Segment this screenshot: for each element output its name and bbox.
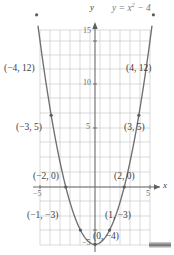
label-point-neg1-neg3: (−1, −3) [27,211,58,221]
data-point [79,228,82,231]
data-point [123,185,126,188]
data-point [93,243,96,246]
x-tick-5: 5 [146,190,150,198]
data-point [35,13,38,16]
scan-artifact-bar [149,242,171,248]
x-axis-label: x [163,181,167,190]
label-point-neg4-12: (−4, 12) [4,64,35,74]
data-point [137,114,140,117]
data-point [152,13,155,16]
equation-base: y = x [112,3,132,13]
label-point-neg2-0: (−2, 0) [33,172,59,182]
y-axis [92,22,97,252]
label-point-3-5: (3, 5) [124,123,145,133]
data-point [64,185,67,188]
label-point-2-0: (2, 0) [114,172,135,182]
label-point-1-neg3: (1, −3) [105,211,131,221]
label-point-vertex: (0, −4) [93,232,119,242]
y-tick-5: 5 [86,123,90,131]
equation-tail: − 4 [135,3,151,13]
label-point-neg3-5: (−3, 5) [16,123,42,133]
y-tick-neg5: −5 [82,239,91,247]
graph-figure: y = x2 − 4 x y 15 10 5 −5 −5 5 (−4, 12) … [0,0,174,255]
x-tick-neg5: −5 [33,190,42,198]
y-tick-10: 10 [83,79,91,87]
x-axis [33,184,160,189]
data-point [50,114,53,117]
y-tick-15: 15 [83,27,91,35]
y-axis-label: y [90,3,94,12]
equation-label: y = x2 − 4 [112,4,151,14]
label-point-4-12: (4, 12) [126,64,151,74]
